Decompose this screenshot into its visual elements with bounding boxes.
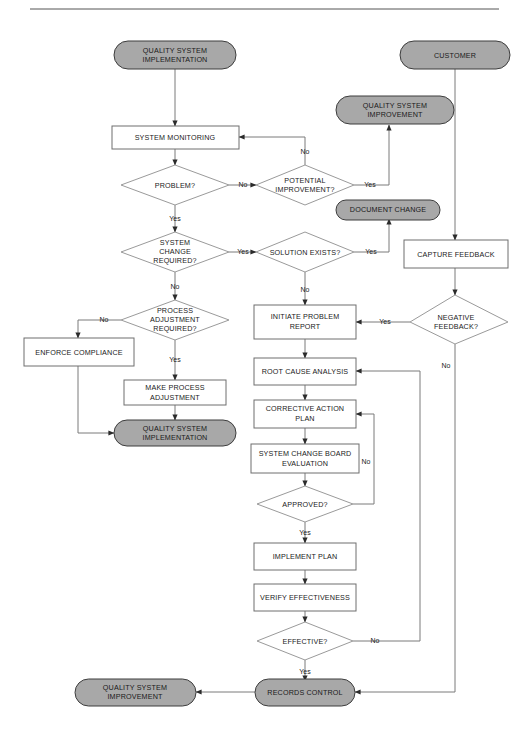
node-quality-system-implementation-bottom[interactable]: QUALITY SYSTEM IMPLEMENTATION [114,420,236,446]
node-label-line1: POTENTIAL [284,176,325,185]
node-potential-improvement-decision[interactable]: POTENTIAL IMPROVEMENT? [256,165,354,205]
node-document-change[interactable]: DOCUMENT CHANGE [336,200,440,220]
node-label-line2: FEEDBACK? [434,322,478,331]
node-label-line1: SOLUTION EXISTS? [270,248,341,257]
edge-effective-no [353,371,420,641]
node-label-line1: EFFECTIVE? [282,637,327,646]
node-label-line1: MAKE PROCESS [145,383,204,392]
node-label-line2: IMPROVEMENT [107,692,163,701]
node-problem-decision[interactable]: PROBLEM? [121,165,229,205]
node-label-line1: CORRECTIVE ACTION [266,404,344,413]
node-label-line1: PROBLEM? [155,181,195,190]
node-negative-feedback-decision[interactable]: NEGATIVE FEEDBACK? [410,295,508,344]
edge-label-potimp-yes: Yes [364,181,376,188]
node-label-line1: SYSTEM [160,238,190,247]
node-capture-feedback[interactable]: CAPTURE FEEDBACK [404,240,508,268]
node-label-line1: CAPTURE FEEDBACK [417,250,495,259]
node-label-line1: SYSTEM MONITORING [135,133,216,142]
node-label-line1: CUSTOMER [434,51,476,60]
edge-label-syschange-no: No [171,283,180,290]
node-label-line1: NEGATIVE [437,313,474,322]
edge-enforce-to-qsi [78,366,114,433]
edge-label-procadj-no: No [100,316,109,323]
node-label-line2: CHANGE [159,247,191,256]
node-enforce-compliance[interactable]: ENFORCE COMPLIANCE [24,338,134,366]
node-customer[interactable]: CUSTOMER [400,41,510,69]
node-label-line1: QUALITY SYSTEM [143,46,207,55]
edge-label-solexists-yes: Yes [365,248,377,255]
edge-label-negfb-yes: Yes [379,318,391,325]
node-root-cause-analysis[interactable]: ROOT CAUSE ANALYSIS [254,358,356,385]
node-label-line1: ROOT CAUSE ANALYSIS [262,367,349,376]
node-records-control[interactable]: RECORDS CONTROL [255,679,355,706]
node-label-line2: IMPLEMENTATION [143,433,208,442]
node-system-change-required-decision[interactable]: SYSTEM CHANGE REQUIRED? [121,232,229,272]
node-label-line1: QUALITY SYSTEM [103,683,167,692]
edge-potimp-no [239,137,305,165]
node-label-line2: IMPROVEMENT? [275,185,334,194]
node-label-line2: PLAN [295,414,314,423]
node-quality-system-improvement-bottom[interactable]: QUALITY SYSTEM IMPROVEMENT [75,679,196,706]
node-label-line2: IMPROVEMENT [367,110,423,119]
edge-label-problem-yes: Yes [169,215,181,222]
node-quality-system-improvement-top[interactable]: QUALITY SYSTEM IMPROVEMENT [336,96,454,124]
node-verify-effectiveness[interactable]: VERIFY EFFECTIVENESS [254,584,356,611]
node-label-line1: IMPLEMENT PLAN [273,552,338,561]
node-implement-plan[interactable]: IMPLEMENT PLAN [254,543,356,570]
node-effective-decision[interactable]: EFFECTIVE? [257,622,353,660]
node-label-line2: REPORT [290,322,321,331]
edge-label-negfb-no: No [442,362,451,369]
node-label-line2: ADJUSTMENT [150,315,200,324]
node-system-monitoring[interactable]: SYSTEM MONITORING [112,126,239,149]
node-initiate-problem-report[interactable]: INITIATE PROBLEM REPORT [254,305,356,339]
node-label-line1: DOCUMENT CHANGE [350,205,426,214]
node-label-line2: ADJUSTMENT [150,393,200,402]
node-label-line1: QUALITY SYSTEM [143,424,207,433]
node-label-line3: REQUIRED? [153,256,196,265]
flowchart-canvas: No Yes No Yes Yes No Yes No No Yes Yes N… [0,0,529,738]
edge-potimp-yes [354,125,389,185]
node-label-line1: ENFORCE COMPLIANCE [35,348,122,357]
node-label-line2: IMPLEMENTATION [143,55,208,64]
node-label-line2: EVALUATION [282,459,328,468]
node-label-line3: REQUIRED? [153,324,196,333]
edge-label-effective-yes: Yes [299,668,311,675]
node-label-line1: VERIFY EFFECTIVENESS [260,593,350,602]
node-make-process-adjustment[interactable]: MAKE PROCESS ADJUSTMENT [124,380,226,405]
node-label-line1: APPROVED? [282,500,327,509]
node-quality-system-implementation-top[interactable]: QUALITY SYSTEM IMPLEMENTATION [114,41,236,69]
node-corrective-action-plan[interactable]: CORRECTIVE ACTION PLAN [254,400,356,428]
edge-label-problem-no: No [239,181,248,188]
node-label-line1: PROCESS [157,306,193,315]
edge-label-potimp-no: No [301,148,310,155]
node-label-line1: INITIATE PROBLEM [271,312,340,321]
node-process-adjustment-required-decision[interactable]: PROCESS ADJUSTMENT REQUIRED? [121,300,229,340]
edge-label-solexists-no: No [301,286,310,293]
node-approved-decision[interactable]: APPROVED? [257,486,353,522]
edge-label-approved-yes: Yes [299,529,311,536]
node-solution-exists-decision[interactable]: SOLUTION EXISTS? [256,232,354,272]
node-label-line1: SYSTEM CHANGE BOARD [259,449,352,458]
edge-label-approved-no: No [362,458,371,465]
edge-label-procadj-yes: Yes [169,356,181,363]
edge-label-syschange-yes: Yes [237,248,249,255]
flowchart-page: No Yes No Yes Yes No Yes No No Yes Yes N… [0,0,529,738]
node-label-line1: QUALITY SYSTEM [363,101,427,110]
node-system-change-board-evaluation[interactable]: SYSTEM CHANGE BOARD EVALUATION [251,444,359,473]
node-label-line1: RECORDS CONTROL [267,688,342,697]
edge-label-effective-no: No [371,637,380,644]
